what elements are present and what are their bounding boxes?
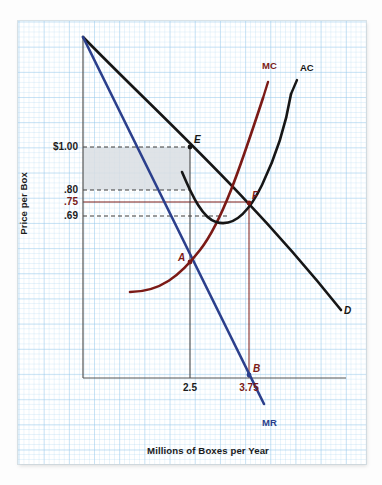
y-tick-label-0-75: .75 xyxy=(22,196,78,207)
curve-label-mc: MC xyxy=(262,60,277,71)
y-tick-label-0-69: .69 xyxy=(22,210,78,221)
point-b-marker xyxy=(247,373,252,378)
curve-marginal-revenue xyxy=(83,37,264,404)
point-a-marker xyxy=(188,260,193,265)
curve-average-cost xyxy=(182,94,291,223)
y-tick-label-0-80: .80 xyxy=(22,184,78,195)
mc-label-leader xyxy=(263,82,268,98)
chart-figure: Price per Box Millions of Boxes per Year… xyxy=(0,0,382,485)
point-label-b: B xyxy=(253,363,260,374)
curve-label-mr: MR xyxy=(262,417,277,428)
curve-marginal-cost xyxy=(130,98,263,292)
x-tick-label-2-5: 2.5 xyxy=(166,382,214,393)
curve-label-ac: AC xyxy=(300,62,314,73)
point-e-marker xyxy=(188,145,193,150)
point-label-f: F xyxy=(252,190,258,201)
x-tick-label-3-75: 3.75 xyxy=(225,382,273,393)
point-label-a: A xyxy=(178,252,185,263)
economic-profit-rectangle xyxy=(83,147,190,190)
plot-canvas xyxy=(0,0,382,485)
point-f-marker xyxy=(247,201,252,206)
ac-label-leader xyxy=(291,80,297,94)
x-axis-title: Millions of Boxes per Year xyxy=(108,445,308,456)
y-tick-label-1-00: $1.00 xyxy=(22,141,78,152)
curve-label-d: D xyxy=(344,305,351,316)
point-label-e: E xyxy=(194,134,201,145)
